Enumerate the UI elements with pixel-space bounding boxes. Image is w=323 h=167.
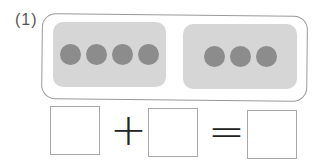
dot-group-left xyxy=(53,22,166,87)
dot-icon xyxy=(230,46,251,67)
dot-icon xyxy=(60,44,81,65)
answer-box-operand2[interactable] xyxy=(148,108,198,157)
equals-sign: = xyxy=(208,110,245,154)
answer-box-result[interactable] xyxy=(247,110,297,159)
plus-sign: + xyxy=(110,108,147,152)
answer-box-operand1[interactable] xyxy=(50,106,100,155)
dot-icon xyxy=(204,46,225,67)
dot-icon xyxy=(138,44,159,65)
dot-icon xyxy=(256,46,277,67)
dot-icon xyxy=(112,44,133,65)
problem-number-label: (1) xyxy=(15,11,38,29)
dot-group-right xyxy=(183,24,297,89)
dot-icon xyxy=(86,44,107,65)
